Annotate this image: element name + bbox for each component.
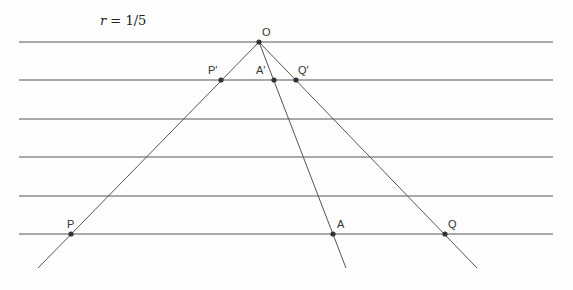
point-label-p-prime: P' <box>208 64 217 76</box>
point-label-q: Q <box>448 218 457 230</box>
point-p <box>68 231 73 236</box>
point-label-p: P <box>67 218 74 230</box>
point-q <box>442 231 447 236</box>
point-q-prime <box>293 77 298 82</box>
point-p-prime <box>218 77 223 82</box>
point-a-prime <box>271 77 276 82</box>
homothety-diagram: OP'A'Q'PAQ <box>0 0 573 290</box>
point-label-a-prime: A' <box>256 64 265 76</box>
points: OP'A'Q'PAQ <box>67 26 457 237</box>
point-label-a: A <box>337 218 345 230</box>
point-o <box>256 39 261 44</box>
point-a <box>330 231 335 236</box>
point-label-q-prime: Q' <box>298 64 309 76</box>
point-label-o: O <box>262 26 271 38</box>
